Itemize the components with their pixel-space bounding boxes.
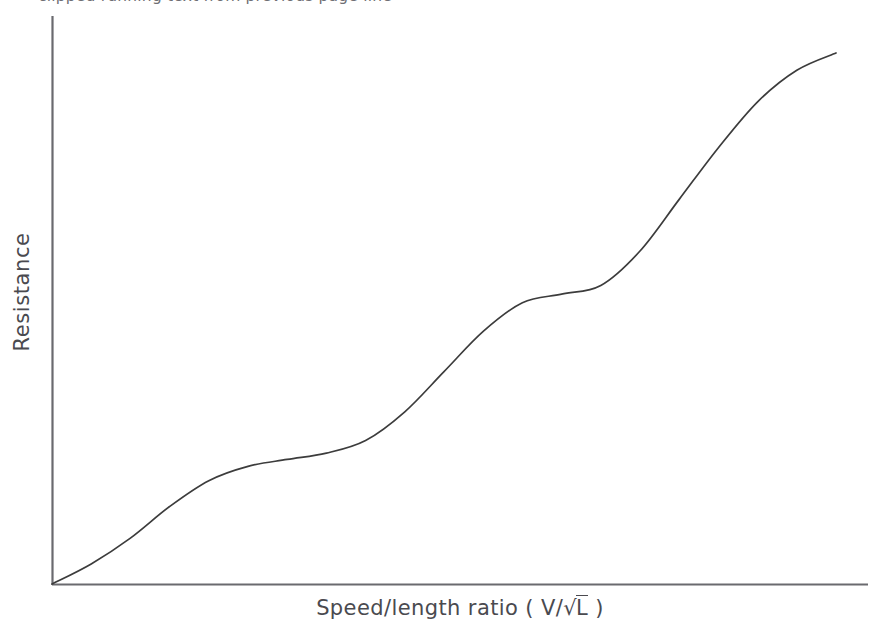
sqrt-group: √L [563,596,588,620]
figure-root: clipped running text from previous page … [0,0,879,630]
x-axis-title-prefix: Speed/length ratio ( V/ [316,596,563,620]
x-axis-title-suffix: ) [588,596,604,620]
resistance-chart-svg [0,0,879,630]
x-axis-title: Speed/length ratio ( V/√L ) [52,596,868,620]
sqrt-icon: √ [563,596,577,620]
sqrt-radicand: L [576,595,588,620]
resistance-curve [52,53,836,584]
